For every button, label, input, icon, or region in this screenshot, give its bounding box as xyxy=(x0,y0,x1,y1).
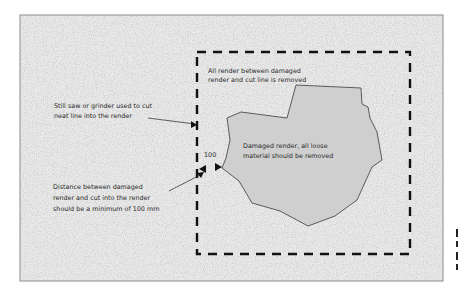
saw-cut-line-2: neat line into the render xyxy=(54,112,132,120)
render-repair-diagram: All render between damaged render and cu… xyxy=(0,0,458,293)
removed-zone-line-1: All render between damaged xyxy=(208,67,301,75)
distance-line-1: Distance between damaged xyxy=(53,183,143,191)
distance-line-2: render and cut into the render xyxy=(53,194,151,202)
dimension-value: 100 xyxy=(204,151,216,159)
damaged-line-2: material should be removed xyxy=(243,152,333,160)
removed-zone-line-2: render and cut line is removed xyxy=(208,76,306,84)
distance-label: Distance between damaged render and cut … xyxy=(53,183,159,213)
removed-zone-label: All render between damaged render and cu… xyxy=(208,67,306,84)
distance-line-3: should be a minimum of 100 mm xyxy=(53,205,159,213)
damaged-line-1: Damaged render, all loose xyxy=(243,142,328,150)
saw-cut-line-1: Still saw or grinder used to cut xyxy=(54,102,153,110)
